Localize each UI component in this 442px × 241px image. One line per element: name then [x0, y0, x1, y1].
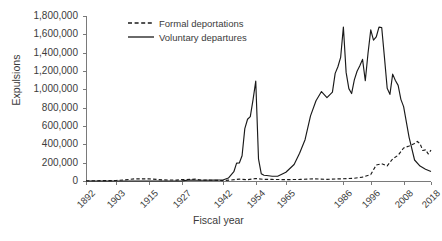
dashed-line-swatch-icon	[128, 18, 154, 28]
x-axis-tick-mark	[286, 182, 287, 185]
x-axis-tick-label: 1942	[206, 188, 234, 216]
x-axis-tick-mark	[256, 182, 257, 185]
solid-line-swatch-icon	[128, 32, 154, 42]
x-axis-tick-mark	[86, 182, 87, 185]
x-axis-tick-label: 1986	[326, 188, 354, 216]
x-axis-tick-mark	[149, 182, 150, 185]
x-axis-tick-label: 2018	[414, 188, 442, 216]
x-axis-tick-label: 1892	[69, 188, 97, 216]
x-axis-tick-label: 2008	[386, 188, 414, 216]
legend-label-voluntary-departures: Voluntary departures	[159, 32, 247, 43]
series-line-voluntary-departures	[86, 27, 431, 181]
x-axis-tick-mark	[223, 182, 224, 185]
x-axis-tick-label: 1915	[132, 188, 160, 216]
x-axis-title: Fiscal year	[0, 214, 437, 226]
x-axis-tick-mark	[116, 182, 117, 185]
x-axis-tick-label: 1996	[354, 188, 382, 216]
x-axis-tick-mark	[343, 182, 344, 185]
legend-item-formal-deportations: Formal deportations	[128, 16, 247, 30]
legend-label-formal-deportations: Formal deportations	[159, 18, 243, 29]
x-axis-tick-label: 1903	[99, 188, 127, 216]
x-axis-tick-mark	[404, 182, 405, 185]
x-axis-tick-label: 1927	[165, 188, 193, 216]
x-axis-tick-mark	[431, 182, 432, 185]
chart-legend: Formal deportations Voluntary departures	[128, 16, 247, 44]
legend-item-voluntary-departures: Voluntary departures	[128, 30, 247, 44]
x-axis-tick-label: 1954	[239, 188, 267, 216]
x-axis-tick-mark	[371, 182, 372, 185]
x-axis-tick-mark	[182, 182, 183, 185]
x-axis-tick-label: 1965	[269, 188, 297, 216]
